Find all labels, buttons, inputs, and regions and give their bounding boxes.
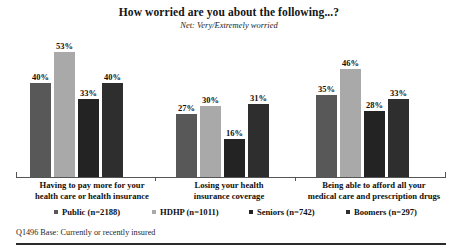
legend-swatch-icon — [152, 210, 156, 214]
bar-value-label: 40% — [96, 72, 130, 82]
bar-boomers[interactable] — [248, 104, 269, 177]
category-label: Having to pay more for yourhealth care o… — [12, 180, 172, 201]
x-axis-line — [16, 177, 446, 178]
bar-value-label: 16% — [218, 128, 252, 138]
legend-item-boomers[interactable]: Boomers (n=297) — [346, 207, 417, 217]
bar-slot: 28% — [364, 36, 385, 177]
legend-label: HDHP (n=1011) — [160, 207, 219, 217]
legend-swatch-icon — [249, 210, 253, 214]
category-label-line: insurance coverage — [164, 191, 294, 202]
chart-legend: Public (n=2188)HDHP (n=1011)Seniors (n=7… — [16, 207, 448, 220]
chart-subtitle: Net: Very/Extremely worried — [0, 20, 458, 31]
bar-value-label: 33% — [382, 88, 416, 98]
bar-public[interactable] — [30, 83, 51, 177]
bar-slot: 53% — [54, 36, 75, 177]
bar-value-label: 31% — [242, 93, 276, 103]
bar-seniors[interactable] — [224, 139, 245, 177]
axis-tick — [295, 177, 296, 181]
bar-value-label: 33% — [72, 88, 106, 98]
footer-divider — [16, 243, 446, 245]
axis-tick — [445, 172, 446, 178]
chart-title: How worried are you about the following.… — [0, 6, 458, 19]
category-label-line: Being able to afford all your — [288, 180, 458, 191]
footnote-text: Q1496 Base: Currently or recently insure… — [16, 228, 155, 238]
bar-value-label: 40% — [24, 72, 58, 82]
bar-value-label: 30% — [194, 95, 228, 105]
bar-value-label: 35% — [310, 84, 344, 94]
legend-item-seniors[interactable]: Seniors (n=742) — [249, 207, 315, 217]
axis-tick — [16, 172, 17, 178]
bar-boomers[interactable] — [102, 83, 123, 177]
bar-hdhp[interactable] — [200, 106, 221, 177]
bar-group: 35%46%28%33% — [316, 36, 409, 177]
bar-group: 40%53%33%40% — [30, 36, 123, 177]
bar-chart-plot-area: 40%53%33%40%27%30%16%31%35%46%28%33% — [16, 36, 446, 177]
category-label-line: medical care and prescription drugs — [288, 191, 458, 202]
category-label-line: Losing your health — [164, 180, 294, 191]
bar-hdhp[interactable] — [54, 52, 75, 177]
chart-header: How worried are you about the following.… — [0, 6, 458, 31]
category-label: Losing your healthinsurance coverage — [164, 180, 294, 201]
category-label: Being able to afford all yourmedical car… — [288, 180, 458, 201]
bar-public[interactable] — [176, 114, 197, 177]
bar-value-label: 53% — [48, 41, 82, 51]
bar-slot: 40% — [102, 36, 123, 177]
legend-item-public[interactable]: Public (n=2188) — [54, 207, 120, 217]
bar-slot: 27% — [176, 36, 197, 177]
bar-value-label: 28% — [358, 100, 392, 110]
bar-slot: 33% — [388, 36, 409, 177]
legend-label: Seniors (n=742) — [257, 207, 315, 217]
bar-slot: 31% — [248, 36, 269, 177]
legend-label: Public (n=2188) — [62, 207, 120, 217]
bar-boomers[interactable] — [388, 99, 409, 177]
bar-group: 27%30%16%31% — [176, 36, 269, 177]
legend-swatch-icon — [54, 210, 58, 214]
bar-seniors[interactable] — [78, 99, 99, 177]
axis-tick — [155, 177, 156, 181]
category-label-line: health care or health insurance — [12, 191, 172, 202]
bar-slot: 33% — [78, 36, 99, 177]
bar-hdhp[interactable] — [340, 69, 361, 177]
legend-swatch-icon — [346, 210, 350, 214]
category-axis-labels: Having to pay more for yourhealth care o… — [16, 180, 446, 204]
bar-seniors[interactable] — [364, 111, 385, 177]
bar-slot: 30% — [200, 36, 221, 177]
legend-item-hdhp[interactable]: HDHP (n=1011) — [152, 207, 219, 217]
category-label-line: Having to pay more for your — [12, 180, 172, 191]
legend-label: Boomers (n=297) — [354, 207, 417, 217]
bar-slot: 16% — [224, 36, 245, 177]
bar-value-label: 46% — [334, 58, 368, 68]
bar-slot: 40% — [30, 36, 51, 177]
bar-public[interactable] — [316, 95, 337, 177]
